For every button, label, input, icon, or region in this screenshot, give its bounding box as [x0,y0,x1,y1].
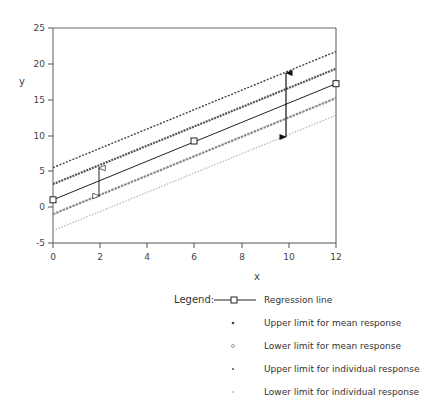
legend: Legend: Regression line Upper limit for … [0,0,433,418]
legend-item-upper-individual: Upper limit for individual response [264,364,419,374]
legend-item-lower-individual: Lower limit for individual response [264,387,419,397]
legend-item-lower-mean: Lower limit for mean response [264,341,401,351]
legend-item-upper-mean: Upper limit for mean response [264,318,401,328]
lower-individual-swatch [230,389,236,395]
upper-mean-swatch [230,320,236,326]
upper-individual-swatch [230,366,236,372]
legend-item-regression: Regression line [264,295,332,305]
lower-mean-swatch [230,343,236,349]
regression-line-swatch [214,294,256,306]
legend-title: Legend: [174,294,214,305]
